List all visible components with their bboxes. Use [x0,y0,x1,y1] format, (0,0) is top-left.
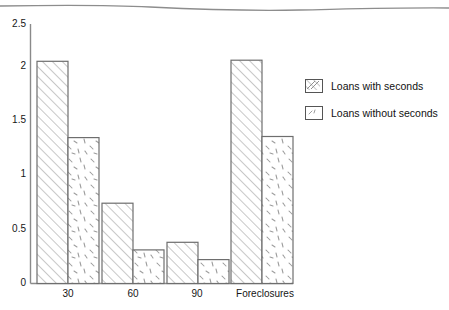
speckle-dash-swatch [305,106,323,120]
bar-without-seconds-90 [198,260,229,284]
y-tick-label-1-5: 1.5 [0,114,26,125]
y-tick-label-1: 1 [0,168,26,179]
chart-figure: 2.5 2 1.5 1 0.5 0 30 60 90 Foreclosures … [0,0,449,310]
bar-with-seconds-90 [167,242,198,283]
bar-without-seconds-60 [133,250,164,284]
diagonal-hatch-swatch [305,79,323,93]
chart-legend: Loans with seconds Loans without seconds [305,78,445,132]
x-tick-label-30: 30 [43,288,93,299]
x-tick-label-90: 90 [172,288,222,299]
bar-without-seconds-foreclosures [262,137,293,284]
y-tick-label-0: 0 [0,277,26,288]
y-tick-label-0-5: 0.5 [0,223,26,234]
legend-label-loans-with-seconds: Loans with seconds [331,80,423,92]
y-tick-label-2-5: 2.5 [0,18,26,29]
bar-with-seconds-30 [37,61,68,283]
bar-with-seconds-60 [102,203,133,283]
x-tick-label-60: 60 [108,288,158,299]
bar-chart-plot [0,0,449,310]
legend-label-loans-without-seconds: Loans without seconds [331,107,438,119]
legend-item-loans-with-seconds: Loans with seconds [305,78,445,94]
y-tick-label-2: 2 [0,60,26,71]
bar-with-seconds-foreclosures [231,60,262,283]
legend-item-loans-without-seconds: Loans without seconds [305,105,445,121]
bar-without-seconds-30 [68,138,99,284]
x-tick-label-foreclosures: Foreclosures [222,288,308,299]
